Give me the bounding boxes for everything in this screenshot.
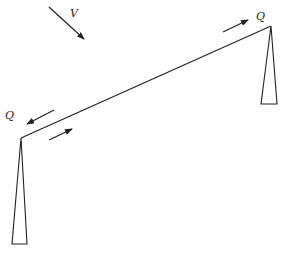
- force-arrow-right-top: [223, 20, 248, 32]
- inclined-beam: [21, 26, 271, 138]
- structure-diagram: V Q Q: [0, 0, 284, 254]
- force-arrow-left-inward: [49, 129, 72, 140]
- wind-arrow: [49, 7, 84, 39]
- right-column: [261, 26, 277, 104]
- left-column: [12, 138, 27, 244]
- force-label-left: Q: [5, 109, 14, 122]
- force-arrow-left-outward: [27, 110, 54, 124]
- wind-label: V: [70, 7, 79, 20]
- force-label-right: Q: [256, 10, 265, 23]
